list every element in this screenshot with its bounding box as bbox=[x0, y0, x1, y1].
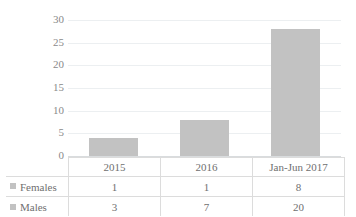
data-table-corner-cell bbox=[6, 158, 69, 177]
chart-data-table: 20152016Jan-Jun 2017Females118Males3720 bbox=[6, 157, 345, 216]
legend-swatch-icon bbox=[10, 183, 16, 189]
data-table-value-cell: 7 bbox=[161, 197, 253, 216]
series-label: Males bbox=[20, 202, 47, 214]
y-axis-tick-label: 15 bbox=[28, 82, 64, 93]
data-table-column-header: 2015 bbox=[69, 158, 161, 177]
data-table-value-cell: 20 bbox=[253, 197, 345, 216]
series-label: Females bbox=[20, 181, 57, 193]
y-axis: 302520151050 bbox=[28, 0, 64, 158]
bar-2016[interactable] bbox=[180, 120, 229, 156]
data-table-header-row: 20152016Jan-Jun 2017 bbox=[6, 158, 345, 177]
bar-jan-jun-2017[interactable] bbox=[271, 29, 320, 156]
data-table-column-header: Jan-Jun 2017 bbox=[253, 158, 345, 177]
data-table-value-cell: 8 bbox=[253, 177, 345, 197]
bars-group bbox=[68, 0, 341, 156]
data-table-body: 20152016Jan-Jun 2017Females118Males3720 bbox=[6, 158, 345, 217]
data-table-value-cell: 3 bbox=[69, 197, 161, 216]
data-table-column-header: 2016 bbox=[161, 158, 253, 177]
data-table-row: Females118 bbox=[6, 177, 345, 197]
bar-slot bbox=[68, 0, 159, 156]
y-axis-tick-label: 5 bbox=[28, 127, 64, 138]
y-axis-tick-label: 25 bbox=[28, 37, 64, 48]
bar-slot bbox=[159, 0, 250, 156]
y-axis-tick-label: 30 bbox=[28, 14, 64, 25]
data-table-row: Males3720 bbox=[6, 197, 345, 216]
column-chart-with-data-table: 302520151050 20152016Jan-Jun 2017Females… bbox=[0, 0, 356, 216]
legend-entry-females[interactable]: Females bbox=[6, 177, 69, 197]
legend-entry-males[interactable]: Males bbox=[6, 197, 69, 216]
y-axis-tick-label: 20 bbox=[28, 59, 64, 70]
y-axis-tick-label: 10 bbox=[28, 105, 64, 116]
bar-slot bbox=[250, 0, 341, 156]
plot-area: 302520151050 bbox=[0, 0, 356, 158]
bar-2015[interactable] bbox=[89, 138, 138, 156]
legend-swatch-icon bbox=[10, 204, 16, 210]
data-table-value-cell: 1 bbox=[69, 177, 161, 197]
data-table-value-cell: 1 bbox=[161, 177, 253, 197]
